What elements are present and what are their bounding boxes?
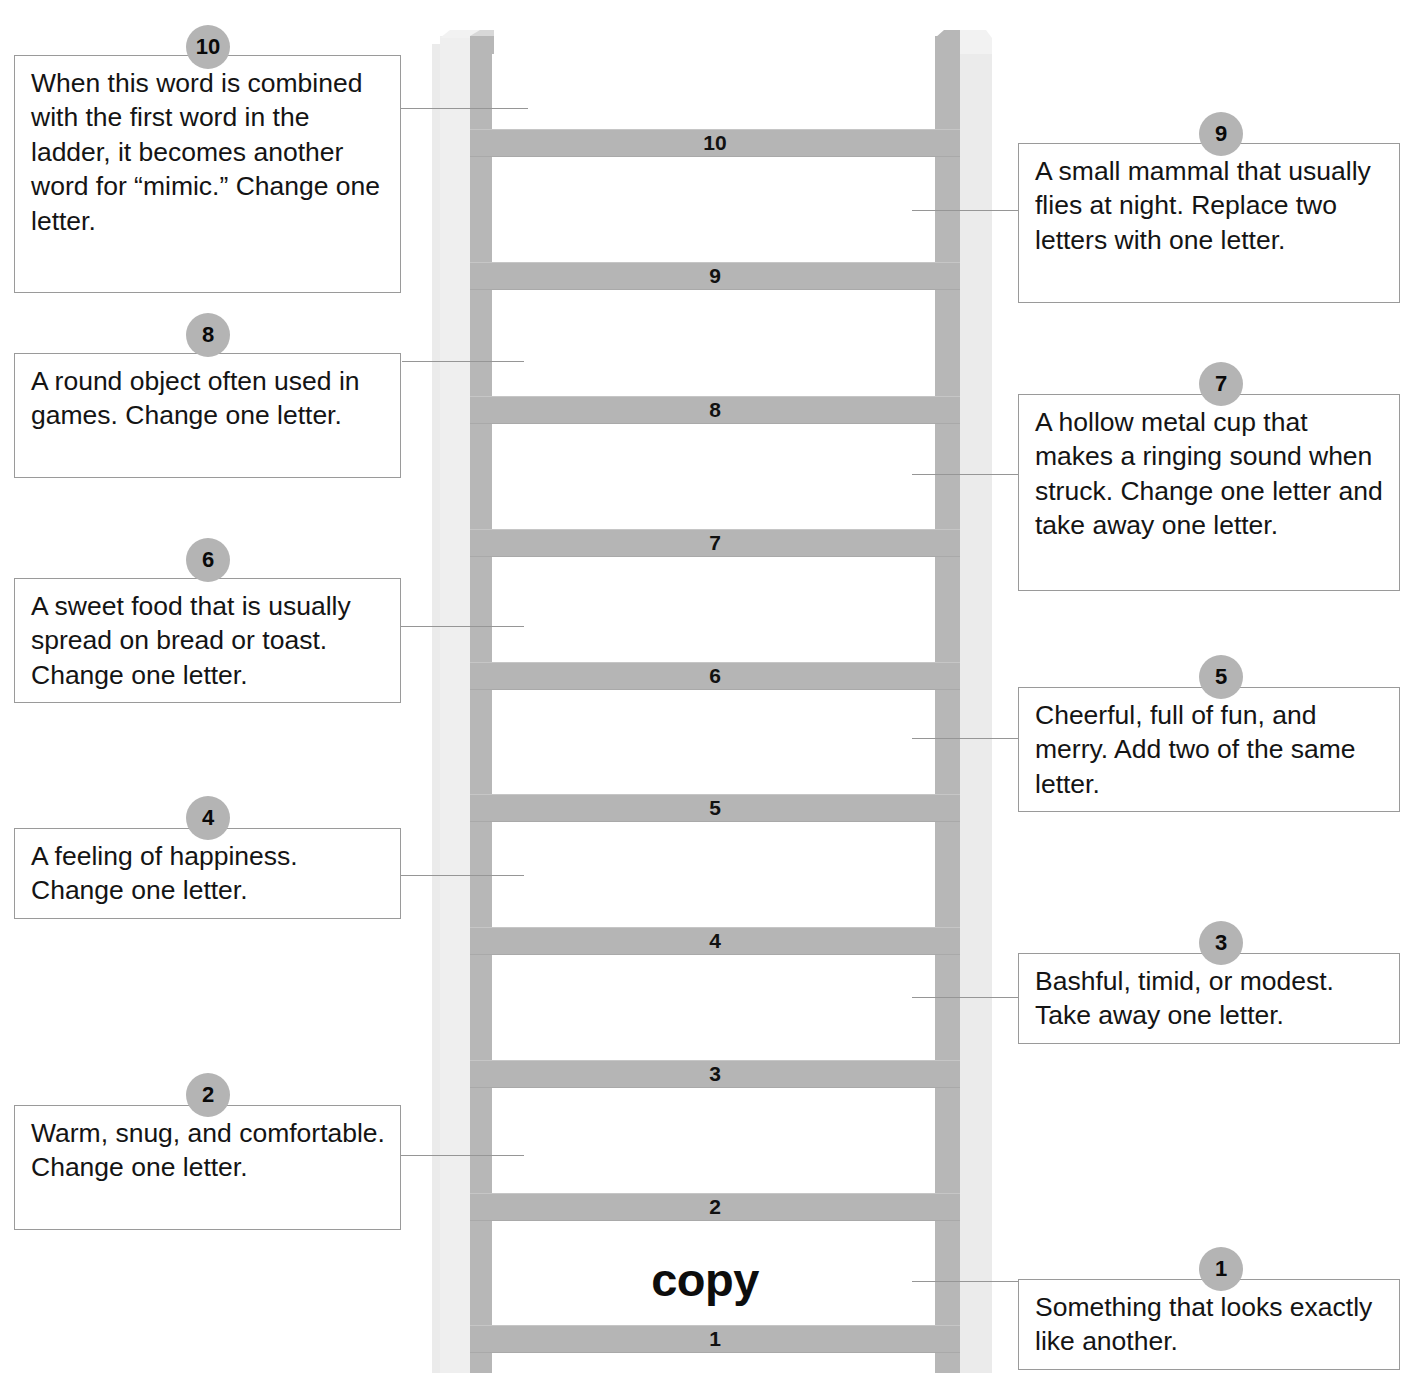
clue-badge-4: 4 [186, 796, 230, 840]
left-rail [470, 36, 492, 1373]
clue-text-3: Bashful, timid, or modest. Take away one… [1035, 964, 1385, 1033]
ladder-rung: 8 [470, 396, 960, 424]
clue-connector-9 [912, 210, 1022, 211]
ladder-rung: 10 [470, 129, 960, 157]
clue-connector-1 [912, 1281, 1022, 1282]
ladder-rung: 3 [470, 1060, 960, 1088]
ladder-rung: 5 [470, 794, 960, 822]
clue-connector-6 [400, 626, 524, 627]
clue-text-7: A hollow metal cup that makes a ringing … [1035, 405, 1385, 543]
clue-text-10: When this word is combined with the firs… [31, 66, 386, 238]
left-rail-top-bevel [440, 30, 494, 54]
clue-text-4: A feeling of happiness. Change one lette… [31, 839, 386, 908]
clue-badge-10: 10 [186, 25, 230, 69]
clue-badge-7: 7 [1199, 362, 1243, 406]
clue-badge-8: 8 [186, 313, 230, 357]
clue-badge-3: 3 [1199, 921, 1243, 965]
clue-box-2[interactable]: Warm, snug, and comfortable. Change one … [14, 1105, 401, 1230]
clue-box-7[interactable]: A hollow metal cup that makes a ringing … [1018, 394, 1400, 591]
clue-badge-9: 9 [1199, 112, 1243, 156]
rung-number: 9 [470, 263, 960, 289]
rung-number: 4 [470, 928, 960, 954]
clue-box-4[interactable]: A feeling of happiness. Change one lette… [14, 828, 401, 919]
clue-connector-4 [398, 875, 524, 876]
clue-box-5[interactable]: Cheerful, full of fun, and merry. Add tw… [1018, 687, 1400, 812]
clue-text-5: Cheerful, full of fun, and merry. Add tw… [1035, 698, 1385, 801]
clue-badge-1: 1 [1199, 1247, 1243, 1291]
clue-connector-3 [912, 997, 1022, 998]
rung-number: 3 [470, 1061, 960, 1087]
clue-text-8: A round object often used in games. Chan… [31, 364, 386, 433]
right-rail-top-bevel [930, 30, 992, 54]
ladder-rung: 7 [470, 529, 960, 557]
clue-box-3[interactable]: Bashful, timid, or modest. Take away one… [1018, 953, 1400, 1044]
ladder-rung: 1 [470, 1325, 960, 1353]
clue-badge-2: 2 [186, 1073, 230, 1117]
right-rail-shadow [960, 44, 992, 1373]
ladder-rung: 6 [470, 662, 960, 690]
rung-number: 1 [470, 1326, 960, 1352]
ladder-rung: 4 [470, 927, 960, 955]
rung-number: 10 [470, 130, 960, 156]
clue-box-9[interactable]: A small mammal that usually flies at nig… [1018, 143, 1400, 303]
clue-box-6[interactable]: A sweet food that is usually spread on b… [14, 578, 401, 703]
rung-number: 8 [470, 397, 960, 423]
rung-number: 7 [470, 530, 960, 556]
word-ladder-worksheet: 10 9 8 7 6 5 4 3 2 1 copy [0, 0, 1410, 1373]
clue-connector-8 [402, 361, 524, 362]
ladder-start-word: copy [470, 1252, 940, 1307]
left-rail-face [440, 36, 472, 1373]
clue-badge-5: 5 [1199, 655, 1243, 699]
clue-connector-10 [400, 108, 528, 109]
rung-number: 5 [470, 795, 960, 821]
clue-connector-2 [398, 1155, 524, 1156]
clue-box-10[interactable]: When this word is combined with the firs… [14, 55, 401, 293]
clue-badge-6: 6 [186, 538, 230, 582]
clue-text-9: A small mammal that usually flies at nig… [1035, 154, 1385, 257]
right-rail [935, 36, 960, 1373]
clue-box-1[interactable]: Something that looks exactly like anothe… [1018, 1279, 1400, 1370]
rung-number: 2 [470, 1194, 960, 1220]
clue-connector-7 [912, 474, 1022, 475]
clue-connector-5 [912, 738, 1022, 739]
rung-number: 6 [470, 663, 960, 689]
ladder-rung: 9 [470, 262, 960, 290]
clue-box-8[interactable]: A round object often used in games. Chan… [14, 353, 401, 478]
clue-text-6: A sweet food that is usually spread on b… [31, 589, 386, 692]
ladder-rung: 2 [470, 1193, 960, 1221]
clue-text-2: Warm, snug, and comfortable. Change one … [31, 1116, 386, 1185]
clue-text-1: Something that looks exactly like anothe… [1035, 1290, 1385, 1359]
